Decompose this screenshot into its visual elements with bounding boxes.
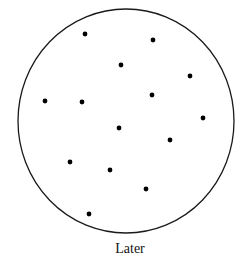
particle-dot — [188, 74, 193, 79]
particle-dot — [80, 100, 85, 105]
particle-dot — [68, 160, 73, 165]
particle-dot — [144, 187, 149, 192]
particle-dot — [168, 138, 173, 143]
particle-dot — [201, 116, 206, 121]
diagram-caption: Later — [0, 241, 242, 257]
particle-dot — [119, 63, 124, 68]
particle-dot — [151, 38, 156, 43]
particle-dot — [117, 126, 122, 131]
particle-dot — [150, 93, 155, 98]
particle-diagram — [0, 0, 242, 262]
particle-dot — [108, 168, 113, 173]
particle-dot — [87, 212, 92, 217]
particle-dots — [43, 32, 206, 217]
particle-dot — [43, 99, 48, 104]
container-circle — [18, 9, 234, 233]
particle-dot — [83, 32, 88, 37]
